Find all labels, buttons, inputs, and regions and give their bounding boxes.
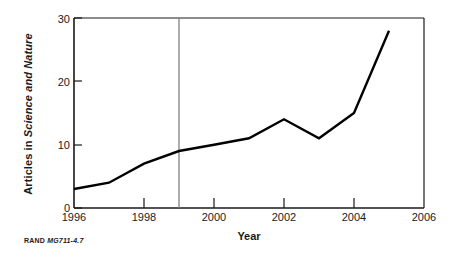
x-axis-title: Year <box>74 230 424 242</box>
axis-frame <box>74 18 424 208</box>
figure-credit: RAND MG711-4.7 <box>24 237 84 244</box>
credit-code: MG711-4.7 <box>47 237 83 244</box>
data-line-series <box>74 31 389 189</box>
plot-area <box>0 0 456 258</box>
y-axis-ticks <box>74 18 82 208</box>
x-axis-ticks <box>144 198 354 208</box>
chart-figure: Articles in Science and Nature 0 10 20 3… <box>0 0 456 258</box>
credit-org: RAND <box>24 237 45 244</box>
